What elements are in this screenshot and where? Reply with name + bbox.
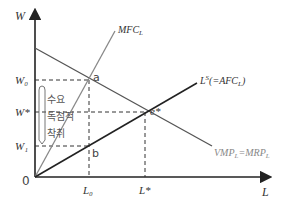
origin-label: 0 bbox=[22, 174, 30, 188]
tick-lstar: L* bbox=[138, 184, 151, 196]
point-b: b bbox=[92, 147, 99, 160]
annotation-line1: 수요 bbox=[47, 94, 65, 105]
annotation-line2: 독점적 bbox=[47, 111, 74, 122]
svg-text:VMPL=MRPL: VMPL=MRPL bbox=[214, 147, 270, 160]
supply-label: LS(=AFCL) bbox=[199, 74, 246, 88]
point-a: a bbox=[93, 71, 100, 84]
svg-text:MFCL: MFCL bbox=[117, 24, 143, 37]
tick-l0: L₀ bbox=[82, 184, 93, 196]
y-axis-label: W bbox=[15, 9, 26, 23]
annotation-line3: 착취 bbox=[47, 128, 65, 139]
mfc-label: MFCL bbox=[117, 24, 143, 37]
tick-w0: W₀ bbox=[15, 74, 28, 86]
tick-wstar: W* bbox=[15, 106, 30, 118]
point-e-star: e* bbox=[150, 105, 161, 117]
x-axis-label: L bbox=[261, 185, 269, 199]
demand-label: VMPL=MRPL bbox=[214, 147, 270, 160]
monopsony-diagram: W L 0 W₀ W* W₁ L₀ L* a b e* MFCL LS(=AFC… bbox=[0, 0, 289, 209]
svg-text:LS(=AFCL): LS(=AFCL) bbox=[199, 74, 246, 88]
exploitation-bracket bbox=[39, 86, 45, 144]
tick-w1: W₁ bbox=[15, 140, 28, 152]
